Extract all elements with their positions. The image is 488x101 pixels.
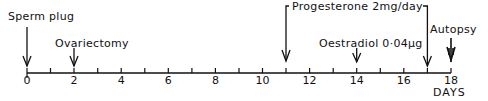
tick-label-2: 2 <box>71 74 78 87</box>
tick-label-4: 4 <box>118 74 125 87</box>
oestradiol-label: Oestradiol 0·04µg <box>319 37 423 50</box>
tick-label-16: 16 <box>397 74 411 87</box>
ovariectomy-arrow-icon <box>70 48 78 66</box>
sperm-plug-label: Sperm plug <box>8 10 74 23</box>
axis-unit-label: DAYS <box>433 86 466 99</box>
tick-label-14: 14 <box>350 74 364 87</box>
tick-label-12: 12 <box>303 74 317 87</box>
autopsy-label: Autopsy <box>430 23 477 36</box>
sperm-plug-arrow-icon <box>23 27 31 66</box>
progesterone-label: Progesterone 2mg/day <box>292 0 423 13</box>
tick-label-0: 0 <box>24 74 31 87</box>
tick-label-6: 6 <box>165 74 172 87</box>
autopsy-arrow-icon <box>447 38 455 62</box>
tick-label-10: 10 <box>256 74 270 87</box>
tick-label-8: 8 <box>212 74 219 87</box>
ovariectomy-label: Ovariectomy <box>55 37 129 50</box>
oestradiol-arrow-icon <box>353 48 361 62</box>
